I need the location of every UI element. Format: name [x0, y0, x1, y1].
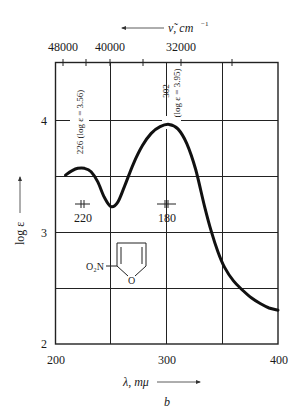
x-tick-300: 300: [158, 353, 176, 367]
top-axis-label: ν̃, cm: [168, 21, 194, 35]
y-tick-4: 4: [41, 114, 47, 128]
x-axis-label: λ, mμ: [122, 375, 149, 389]
y-axis-label: log ε: [13, 222, 27, 245]
molecule-structure-icon: [106, 243, 146, 276]
bandwidth-marker-220: [75, 200, 90, 208]
top-tick-48000: 48000: [48, 40, 78, 54]
top-axis-exponent: −1: [201, 20, 209, 28]
molecule-substituent-label: O₂N: [86, 261, 104, 272]
molecule-ring-oxygen-label: O: [128, 275, 135, 286]
top-tick-40000: 40000: [95, 40, 125, 54]
annotation-peak-226: 226 (log ε = 3.56): [75, 90, 85, 155]
bandwidth-label-220: 220: [74, 211, 92, 225]
gridlines: [55, 62, 278, 344]
top-axis-title: ν̃, cm −1: [121, 20, 209, 35]
y-tick-3: 3: [41, 226, 47, 240]
uv-spectrum-chart: ν̃, cm −1 48000 40000 32000 4 3 2 log ε: [0, 0, 301, 420]
x-axis-title: λ, mμ: [122, 375, 201, 389]
panel-label: b: [164, 395, 170, 409]
bandwidth-label-180: 180: [158, 211, 176, 225]
annotation-peak-302: 302: [161, 84, 171, 98]
top-tick-32000: 32000: [166, 40, 196, 54]
x-tick-400: 400: [270, 353, 288, 367]
x-tick-200: 200: [47, 353, 65, 367]
y-tick-2: 2: [41, 337, 47, 351]
y-axis-title: log ε: [13, 176, 27, 245]
annotation-peak-302-logeps: (log ε = 3.95): [172, 69, 182, 118]
